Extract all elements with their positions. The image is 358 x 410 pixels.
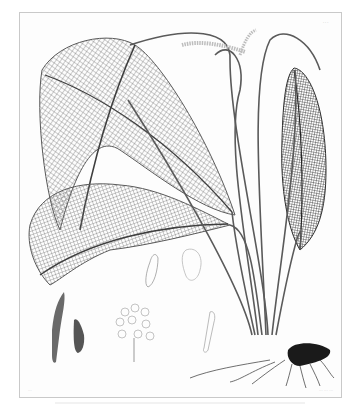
rhizome-with-roots: [190, 343, 334, 388]
figure-flower-cluster: [116, 304, 154, 362]
figure-seed: [182, 249, 201, 280]
figure-carpel: [146, 255, 158, 287]
figure-spathe: [52, 292, 65, 363]
caption-strip: [55, 402, 305, 404]
dark-lattice-leaf-right: [282, 68, 326, 250]
figure-stamen: [203, 312, 214, 353]
figure-bract: [74, 319, 85, 353]
botanical-illustration: [0, 0, 358, 410]
